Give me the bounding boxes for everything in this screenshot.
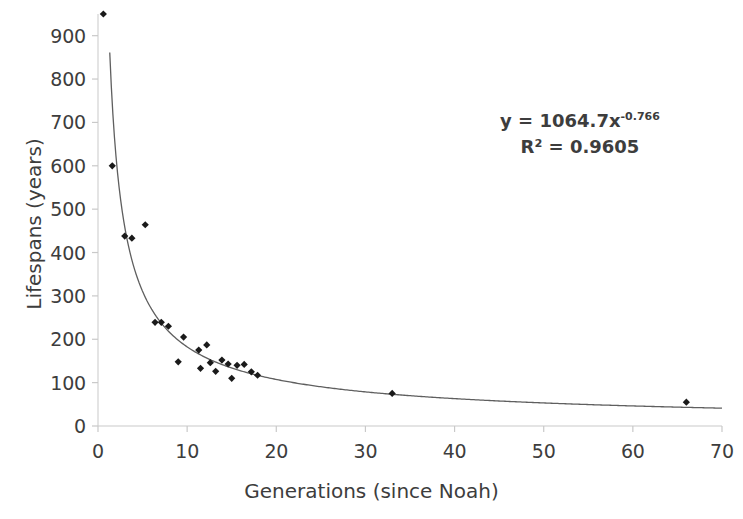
scatter-points (100, 10, 690, 405)
scatter-point (197, 365, 204, 372)
x-axis-title: Generations (since Noah) (0, 479, 743, 503)
scatter-point (233, 362, 240, 369)
scatter-point (228, 375, 235, 382)
x-axis-tick-label: 40 (443, 440, 467, 462)
trendline (110, 53, 722, 409)
scatter-point (100, 10, 107, 17)
y-axis-tick-marks (92, 36, 98, 426)
scatter-point (218, 356, 225, 363)
scatter-point (683, 399, 690, 406)
y-axis-tick-label: 100 (10, 372, 86, 394)
axis-lines (98, 14, 722, 426)
y-axis-tick-label: 800 (10, 68, 86, 90)
r-squared-line: R² = 0.9605 (470, 134, 690, 160)
scatter-point (254, 372, 261, 379)
scatter-point (175, 358, 182, 365)
x-axis-tick-label: 20 (264, 440, 288, 462)
x-axis-tick-label: 60 (621, 440, 645, 462)
trendline-equation-annotation: y = 1064.7x-0.766 R² = 0.9605 (470, 108, 690, 160)
scatter-point (241, 361, 248, 368)
x-axis-tick-label: 50 (532, 440, 556, 462)
scatter-point (203, 341, 210, 348)
scatter-point (128, 235, 135, 242)
x-axis-tick-marks (98, 426, 722, 432)
x-axis-tick-label: 0 (92, 440, 104, 462)
scatter-point (180, 333, 187, 340)
y-axis-tick-label: 900 (10, 25, 86, 47)
chart-container: 0100200300400500600700800900 01020304050… (0, 0, 743, 519)
equation-exponent: -0.766 (621, 110, 660, 123)
x-axis-tick-label: 70 (710, 440, 734, 462)
scatter-point (109, 162, 116, 169)
y-axis-title: Lifespans (years) (22, 94, 46, 354)
equation-line: y = 1064.7x-0.766 (470, 108, 690, 134)
scatter-point (389, 390, 396, 397)
scatter-point (151, 319, 158, 326)
scatter-point (142, 221, 149, 228)
y-axis-tick-label: 0 (10, 415, 86, 437)
scatter-point (212, 368, 219, 375)
equation-text: y = 1064.7x (500, 110, 620, 131)
x-axis-tick-label: 10 (175, 440, 199, 462)
x-axis-tick-label: 30 (354, 440, 378, 462)
